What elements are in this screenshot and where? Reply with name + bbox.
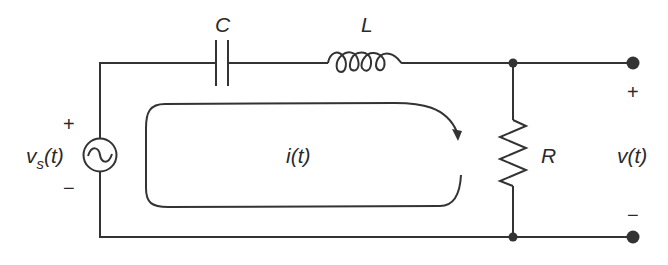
output-plus-sign: +: [627, 82, 639, 102]
circuit-diagram: C L R i(t) v(t) vs(t) + − + −: [0, 0, 668, 265]
arrowhead-icon: [452, 129, 462, 141]
source-minus-sign: −: [63, 178, 75, 198]
circuit-wiring: [0, 0, 668, 265]
output-voltage-label: v(t): [617, 145, 647, 166]
capacitor-label: C: [215, 14, 230, 35]
source-plus-sign: +: [63, 114, 75, 134]
resistor-icon: [500, 120, 526, 186]
inductor-icon: [328, 52, 402, 72]
ac-source-icon: [84, 139, 117, 172]
junction-top-dot: [509, 59, 518, 68]
source-label-main: v: [26, 144, 37, 167]
source-label-subscript: s: [37, 155, 45, 172]
resistor-label: R: [541, 145, 556, 166]
junction-bottom-dot: [509, 233, 518, 242]
capacitor-icon: [216, 40, 228, 86]
inductor-label: L: [361, 14, 373, 35]
source-label-tail: (t): [44, 144, 64, 167]
output-minus-sign: −: [627, 205, 639, 225]
output-terminal-top: [627, 57, 640, 70]
source-voltage-label: vs(t): [26, 145, 64, 170]
output-terminal-bottom: [627, 231, 640, 244]
loop-current-label: i(t): [286, 145, 311, 166]
